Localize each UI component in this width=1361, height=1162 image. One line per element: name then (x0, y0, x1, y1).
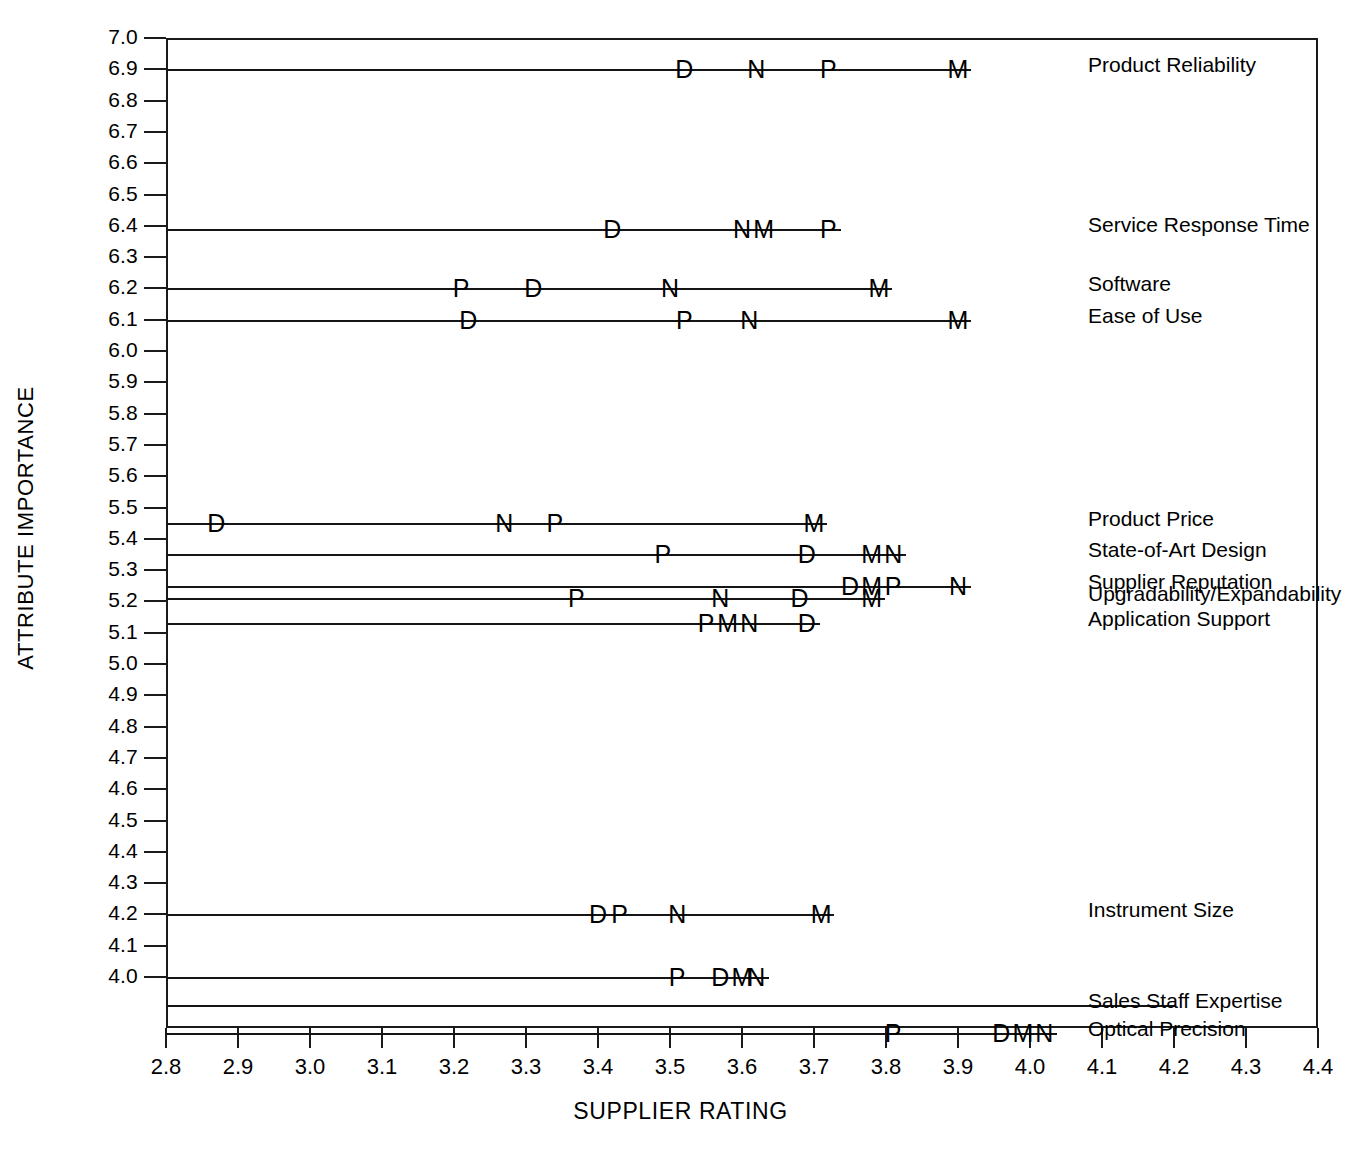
y-tick-label: 4.7 (108, 745, 138, 769)
x-tick-label: 4.0 (990, 1054, 1070, 1080)
x-tick-label: 3.3 (486, 1054, 566, 1080)
row-connector-line (166, 914, 834, 916)
y-tick-label: 6.0 (108, 338, 138, 362)
supplier-marker-D: D (520, 273, 546, 303)
supplier-marker-P: P (664, 962, 690, 992)
x-tick-label: 3.7 (774, 1054, 854, 1080)
x-tick-label: 4.4 (1278, 1054, 1358, 1080)
y-tick-mark (144, 851, 166, 853)
supplier-marker-P: P (671, 305, 697, 335)
x-tick-label: 3.9 (918, 1054, 998, 1080)
y-tick-mark (144, 913, 166, 915)
x-tick-label: 3.8 (846, 1054, 926, 1080)
y-tick-mark (144, 820, 166, 822)
supplier-marker-D: D (203, 508, 229, 538)
supplier-marker-P: P (815, 54, 841, 84)
attribute-label: Service Response Time (1088, 212, 1310, 238)
attribute-label: Product Reliability (1088, 52, 1256, 78)
x-tick-label: 3.4 (558, 1054, 638, 1080)
plot-area (166, 38, 1318, 1028)
y-tick-label: 5.3 (108, 557, 138, 581)
y-tick-label: 5.0 (108, 651, 138, 675)
y-tick-label: 6.2 (108, 275, 138, 299)
x-tick-mark (309, 1028, 311, 1048)
y-tick-mark (144, 287, 166, 289)
y-tick-mark (144, 726, 166, 728)
y-tick-label: 6.8 (108, 88, 138, 112)
supplier-marker-N: N (1031, 1018, 1057, 1048)
x-tick-label: 4.2 (1134, 1054, 1214, 1080)
y-tick-mark (144, 600, 166, 602)
attribute-label: Upgradability/Expandability (1088, 581, 1341, 607)
y-axis-title: ATTRIBUTE IMPORTANCE (13, 288, 39, 768)
y-tick-mark (144, 475, 166, 477)
y-tick-mark (144, 694, 166, 696)
y-tick-label: 5.7 (108, 432, 138, 456)
y-tick-mark (144, 131, 166, 133)
y-tick-mark (144, 757, 166, 759)
supplier-marker-D: D (671, 54, 697, 84)
supplier-marker-P: P (607, 899, 633, 929)
supplier-marker-D: D (455, 305, 481, 335)
y-tick-label: 4.6 (108, 776, 138, 800)
chart-canvas: 7.06.96.86.76.66.56.46.36.26.16.05.95.85… (0, 0, 1361, 1162)
supplier-marker-P: P (448, 273, 474, 303)
attribute-label: Ease of Use (1088, 303, 1202, 329)
y-tick-mark (144, 788, 166, 790)
row-connector-line (166, 598, 885, 600)
y-tick-mark (144, 381, 166, 383)
y-tick-mark (144, 976, 166, 978)
supplier-marker-P: P (815, 214, 841, 244)
x-axis-title: SUPPLIER RATING (0, 1098, 1361, 1125)
x-tick-label: 3.2 (414, 1054, 494, 1080)
attribute-label: Optical Precision (1088, 1016, 1246, 1042)
x-tick-mark (525, 1028, 527, 1048)
row-connector-line (166, 1005, 1176, 1007)
y-tick-label: 6.9 (108, 56, 138, 80)
attribute-label: Product Price (1088, 506, 1214, 532)
supplier-marker-N: N (736, 305, 762, 335)
y-tick-mark (144, 37, 166, 39)
supplier-marker-D: D (794, 608, 820, 638)
x-tick-mark (237, 1028, 239, 1048)
supplier-marker-N: N (657, 273, 683, 303)
supplier-marker-M: M (859, 583, 885, 613)
y-tick-label: 4.4 (108, 839, 138, 863)
y-tick-label: 4.3 (108, 870, 138, 894)
attribute-label: Instrument Size (1088, 897, 1234, 923)
y-tick-label: 5.4 (108, 526, 138, 550)
supplier-marker-M: M (945, 54, 971, 84)
y-tick-mark (144, 100, 166, 102)
supplier-marker-N: N (880, 539, 906, 569)
y-tick-label: 4.1 (108, 933, 138, 957)
y-tick-mark (144, 162, 166, 164)
x-tick-mark (813, 1028, 815, 1048)
y-tick-mark (144, 225, 166, 227)
y-tick-label: 7.0 (108, 25, 138, 49)
supplier-marker-D: D (794, 539, 820, 569)
y-tick-mark (144, 194, 166, 196)
y-tick-label: 5.6 (108, 463, 138, 487)
y-tick-label: 6.7 (108, 119, 138, 143)
supplier-marker-M: M (808, 899, 834, 929)
supplier-marker-N: N (743, 962, 769, 992)
y-tick-mark (144, 632, 166, 634)
y-tick-mark (144, 945, 166, 947)
supplier-marker-M: M (751, 214, 777, 244)
y-tick-mark (144, 68, 166, 70)
x-tick-label: 2.8 (126, 1054, 206, 1080)
y-tick-label: 5.9 (108, 369, 138, 393)
y-tick-label: 4.8 (108, 714, 138, 738)
x-tick-label: 3.0 (270, 1054, 350, 1080)
attribute-label: Software (1088, 271, 1171, 297)
y-tick-label: 6.6 (108, 150, 138, 174)
x-tick-mark (1317, 1028, 1319, 1048)
y-tick-mark (144, 444, 166, 446)
y-tick-label: 4.2 (108, 901, 138, 925)
y-tick-mark (144, 319, 166, 321)
y-tick-label: 4.5 (108, 808, 138, 832)
supplier-marker-P: P (880, 1018, 906, 1048)
y-tick-label: 6.4 (108, 213, 138, 237)
supplier-marker-N: N (664, 899, 690, 929)
x-tick-label: 4.1 (1062, 1054, 1142, 1080)
